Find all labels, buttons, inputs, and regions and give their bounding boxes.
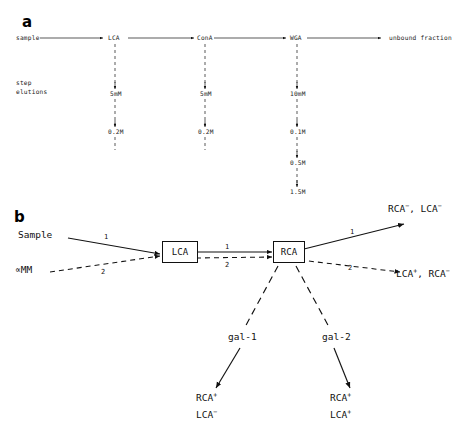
column-label-cona: ConA xyxy=(197,34,213,41)
panel-b-letter: b xyxy=(14,208,25,226)
column-label-lca: LCA xyxy=(108,34,120,41)
panel-a-step-label-line2: elutions xyxy=(16,88,47,95)
path-label-2a: 2 xyxy=(101,268,105,276)
lectin-box-rca[interactable]: RCA xyxy=(273,241,305,263)
output-top-right-sep: , LCA xyxy=(409,203,438,214)
output-bottom-right-lca: LCA xyxy=(396,268,413,279)
panel-b-competitor-label: ∝MM xyxy=(15,264,32,275)
figure-canvas: a sample step elutions LCA ConA WGA unbo… xyxy=(0,0,473,442)
elution-lca-1: 5mM xyxy=(110,90,122,97)
column-label-wga: WGA xyxy=(290,34,302,41)
path-label-1c: 1 xyxy=(350,228,354,236)
output-gal1-rca-sign: + xyxy=(213,391,217,399)
panel-b-sample-label: Sample xyxy=(18,229,52,240)
lectin-box-rca-label: RCA xyxy=(281,247,297,257)
output-top-right-rca: RCA xyxy=(388,203,405,214)
path-label-1b: 1 xyxy=(225,243,229,251)
galectin-label-gal2: gal-2 xyxy=(322,331,351,342)
unbound-fraction-label: unbound fraction xyxy=(389,34,452,41)
output-bottom-right: LCA+, RCA− xyxy=(396,268,450,279)
output-gal2-rca-sign: + xyxy=(347,391,351,399)
panel-a-step-label-line1: step xyxy=(16,79,32,86)
lectin-box-lca-label: LCA xyxy=(172,247,188,257)
output-gal1-lca: LCA xyxy=(196,409,213,420)
output-bottom-right-sep: , RCA xyxy=(417,268,446,279)
output-gal1: RCA+ LCA− xyxy=(196,392,217,420)
output-gal2: RCA+ LCA+ xyxy=(330,392,351,420)
output-top-right: RCA−, LCA− xyxy=(388,203,442,214)
output-gal2-lca-sign: + xyxy=(347,408,351,416)
output-bottom-right-rca-sign: − xyxy=(446,267,450,275)
elution-wga-3: 0.5M xyxy=(290,159,306,166)
panel-a-letter: a xyxy=(22,13,32,31)
elution-cona-1: 5mM xyxy=(200,90,212,97)
elution-wga-2: 0.1M xyxy=(290,128,306,135)
elution-cona-2: 0.2M xyxy=(198,128,214,135)
output-top-right-lca-sign: − xyxy=(438,202,442,210)
elution-wga-4: 1.5M xyxy=(290,188,306,195)
output-gal1-rca: RCA xyxy=(196,392,213,403)
output-gal2-lca: LCA xyxy=(330,409,347,420)
lectin-box-lca[interactable]: LCA xyxy=(162,241,198,263)
elution-wga-1: 10mM xyxy=(290,90,306,97)
path-label-2c: 2 xyxy=(348,264,352,272)
path-label-1a: 1 xyxy=(104,233,108,241)
path-label-2b: 2 xyxy=(225,261,229,269)
output-gal1-lca-sign: − xyxy=(213,408,217,416)
panel-a-sample-label: sample xyxy=(16,34,40,41)
galectin-label-gal1: gal-1 xyxy=(228,331,257,342)
elution-lca-2: 0.2M xyxy=(108,128,124,135)
output-gal2-rca: RCA xyxy=(330,392,347,403)
diagram-lines xyxy=(0,0,473,442)
